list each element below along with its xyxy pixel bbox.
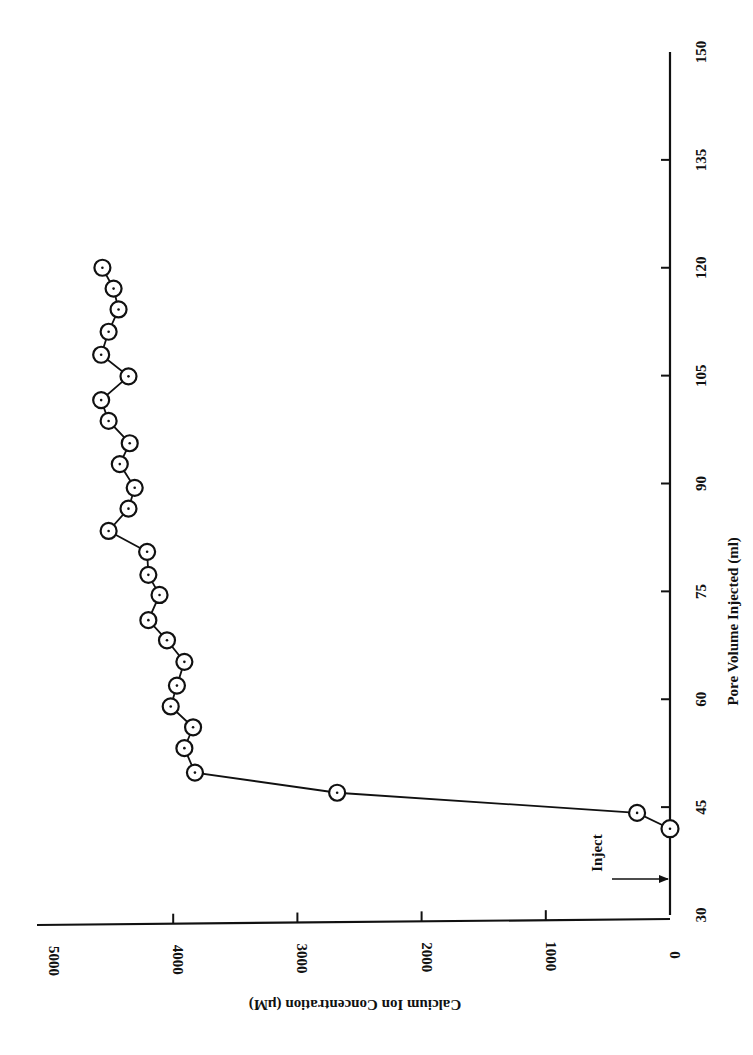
- marker-center-dot: [147, 619, 150, 622]
- marker-center-dot: [100, 353, 103, 356]
- marker-center-dot: [183, 747, 186, 750]
- marker-center-dot: [158, 594, 161, 597]
- marker-center-dot: [100, 399, 103, 402]
- marker-center-dot: [127, 507, 130, 510]
- y-tick-label: 1000: [543, 941, 559, 971]
- marker-center-dot: [118, 463, 121, 466]
- x-tick-label: 45: [693, 800, 709, 815]
- marker-center-dot: [176, 684, 179, 687]
- marker-center-dot: [147, 574, 150, 577]
- x-tick-label: 30: [693, 908, 709, 923]
- y-tick-label: 0: [667, 951, 683, 959]
- marker-center-dot: [183, 661, 186, 664]
- chart-axes: 3045607590105120135150 01000200030004000…: [37, 41, 709, 976]
- marker-center-dot: [107, 330, 110, 333]
- x-tick-label: 75: [693, 584, 709, 599]
- y-tick-label: 4000: [170, 945, 186, 975]
- marker-center-dot: [146, 551, 149, 554]
- marker-center-dot: [194, 771, 197, 774]
- y-tick-label: 3000: [294, 944, 310, 974]
- marker-center-dot: [133, 487, 136, 490]
- marker-center-dot: [636, 812, 639, 815]
- calcium-axis: [37, 919, 670, 925]
- inject-annotation: Inject: [589, 834, 669, 883]
- arrowhead-icon: [659, 875, 669, 883]
- data-series: [93, 260, 678, 837]
- marker-center-dot: [192, 726, 195, 729]
- marker-center-dot: [669, 827, 672, 830]
- marker-center-dot: [166, 639, 169, 642]
- marker-center-dot: [336, 791, 339, 794]
- x-tick-label: 120: [693, 257, 709, 280]
- x-tick-label: 135: [693, 149, 709, 172]
- marker-center-dot: [117, 308, 120, 311]
- y-tick-label: 5000: [46, 946, 62, 976]
- marker-center-dot: [169, 705, 172, 708]
- pore-volume-ticks: 3045607590105120135150: [661, 41, 709, 923]
- marker-center-dot: [107, 420, 110, 423]
- marker-center-dot: [101, 266, 104, 269]
- marker-center-dot: [107, 530, 110, 533]
- data-markers: [93, 260, 678, 837]
- calcium-breakthrough-chart: 3045607590105120135150 01000200030004000…: [0, 0, 753, 1055]
- marker-center-dot: [128, 442, 131, 445]
- y-tick-label: 2000: [419, 942, 435, 972]
- y-axis-title: Calcium Ion Concentration (µM): [249, 996, 461, 1013]
- marker-center-dot: [127, 375, 130, 378]
- x-tick-label: 90: [693, 476, 709, 491]
- x-tick-label: 150: [693, 41, 709, 64]
- x-axis-title: Pore Volume Injected (ml): [725, 537, 742, 705]
- marker-center-dot: [112, 287, 115, 290]
- inject-label: Inject: [589, 834, 605, 872]
- x-tick-label: 105: [693, 364, 709, 387]
- x-tick-label: 60: [693, 692, 709, 707]
